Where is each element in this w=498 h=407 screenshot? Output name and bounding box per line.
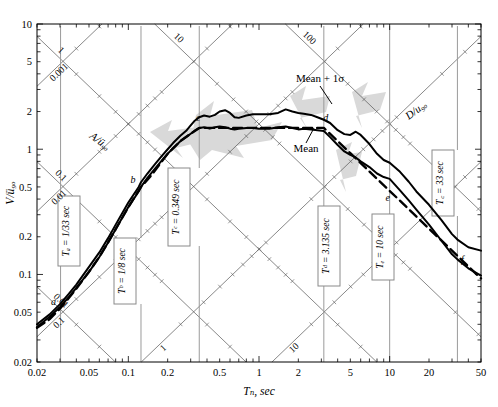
d-axis-line — [37, 24, 102, 86]
y-tick-label: 0.05 — [14, 307, 32, 318]
a-axis-tick-label: 100 — [301, 29, 318, 46]
control-point-label-a: a — [51, 296, 56, 307]
plot-border — [37, 24, 481, 362]
mean-annotation: Mean — [293, 142, 319, 154]
tripartite-plot-svg: 0.020.050.10.20.51251020500.020.050.10.2… — [0, 0, 498, 407]
shaded-region-5 — [336, 142, 362, 192]
d-axis-tick-label: 0.001 — [48, 61, 71, 83]
x-tick-label: 1 — [256, 367, 261, 378]
diagonal-axes — [37, 24, 481, 362]
a-axis-title: A/ü₉ₒ — [87, 129, 113, 153]
callout-label-Te: Tₑ = 10 sec — [375, 225, 385, 269]
response-spectrum-figure: 0.020.050.10.20.51251020500.020.050.10.2… — [0, 0, 498, 407]
y-tick-label: 5 — [27, 56, 32, 67]
x-tick-label: 0.05 — [80, 367, 98, 378]
callout-label-Ta: Tₐ = 1/33 sec — [61, 205, 71, 256]
x-tick-label: 0.5 — [213, 367, 226, 378]
y-tick-label: 0.2 — [19, 231, 32, 242]
x-tick-label: 0.2 — [161, 367, 174, 378]
spectrum-curves — [37, 86, 481, 328]
callout-label-Td: Tᵈ = 3.135 sec — [321, 218, 331, 274]
y-tick-label: 1 — [27, 144, 32, 155]
x-tick-label: 0.02 — [28, 367, 46, 378]
callout-label-Tf: T꜀ = 33 sec — [435, 160, 445, 204]
d-axis-line — [37, 24, 363, 337]
control-point-label-b: b — [130, 174, 135, 185]
mean-plus-sigma-annotation: Mean + 1σ — [296, 72, 344, 84]
callout-label-Tc: Tᶜ = 0.349 sec — [171, 179, 181, 235]
a-axis-tick-label: 1 — [56, 45, 67, 56]
y-tick-label: 0.1 — [19, 269, 32, 280]
y-tick-label: 0.5 — [19, 182, 32, 193]
x-tick-label: 5 — [348, 367, 353, 378]
control-point-label-e: e — [385, 192, 390, 203]
callout-leader-lines — [58, 26, 457, 362]
control-point-label-c: c — [196, 112, 201, 123]
x-tick-label: 10 — [384, 367, 395, 378]
y-axis-title: V/ü₉ₒ — [4, 181, 16, 204]
x-tick-label: 2 — [296, 367, 301, 378]
a-axis-tick-label: 0.1 — [53, 168, 69, 184]
y-tick-label: 10 — [22, 19, 33, 30]
shaded-region-2 — [190, 101, 282, 160]
x-axis-title: Tₙ, sec — [243, 385, 275, 398]
d-axis-tick-label: 1 — [158, 342, 169, 353]
curve-mean — [37, 126, 481, 327]
x-tick-label: 20 — [424, 367, 435, 378]
shaded-region-4 — [352, 82, 386, 128]
x-tick-label: 50 — [476, 367, 487, 378]
y-tick-label: 2 — [27, 106, 32, 117]
plot-frame — [37, 24, 481, 362]
d-axis-tick-label: 10 — [287, 341, 301, 355]
d-axis-title: D/u₉ₒ — [402, 98, 429, 122]
x-tick-label: 0.1 — [122, 367, 135, 378]
curve-design-spectrum — [37, 128, 481, 328]
callout-label-Tb: Tᵇ = 1/8 sec — [117, 247, 127, 293]
y-tick-label: 0.02 — [14, 357, 32, 368]
d-axis-tick-label: 0.1 — [51, 315, 67, 331]
